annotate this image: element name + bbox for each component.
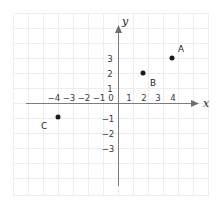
y-tick-label: 1 (107, 84, 112, 94)
x-tick-label: −1 (93, 93, 105, 103)
grid-lines (14, 14, 209, 196)
x-tick-label: −4 (48, 93, 60, 103)
point-dot-a[interactable] (170, 56, 175, 61)
x-tick-label: 1 (126, 93, 131, 103)
y-tick-label: −3 (102, 144, 114, 154)
x-tick-label: 4 (170, 93, 175, 103)
point-dot-b[interactable] (141, 71, 146, 76)
point-label-c: C (41, 121, 47, 131)
x-axis-name: x (203, 97, 210, 110)
point-dot-c[interactable] (56, 115, 61, 120)
plot-canvas: −4 −3 −2 −1 0 1 2 3 4 3 2 1 −1 −2 −3 x y… (0, 0, 218, 207)
x-tick-label: 2 (141, 93, 146, 103)
y-tick-label: 2 (107, 69, 112, 79)
point-label-a: A (178, 44, 184, 54)
y-tick-label: −1 (102, 114, 114, 124)
x-tick-label: 3 (155, 93, 160, 103)
x-tick-label: −3 (63, 93, 75, 103)
origin-label: 0 (108, 93, 113, 103)
point-label-b: B (150, 78, 156, 88)
x-axis-negative-tick-labels: −4 −3 −2 −1 (48, 93, 105, 103)
y-tick-label: 3 (107, 54, 112, 64)
y-axis (115, 25, 122, 186)
coordinate-plane-figure: −4 −3 −2 −1 0 1 2 3 4 3 2 1 −1 −2 −3 x y… (0, 0, 218, 207)
y-axis-name: y (121, 15, 129, 28)
x-tick-label: −2 (78, 93, 90, 103)
y-axis-negative-tick-labels: −1 −2 −3 (102, 114, 114, 154)
y-axis-positive-tick-labels: 3 2 1 (107, 54, 112, 94)
y-tick-label: −2 (102, 129, 114, 139)
